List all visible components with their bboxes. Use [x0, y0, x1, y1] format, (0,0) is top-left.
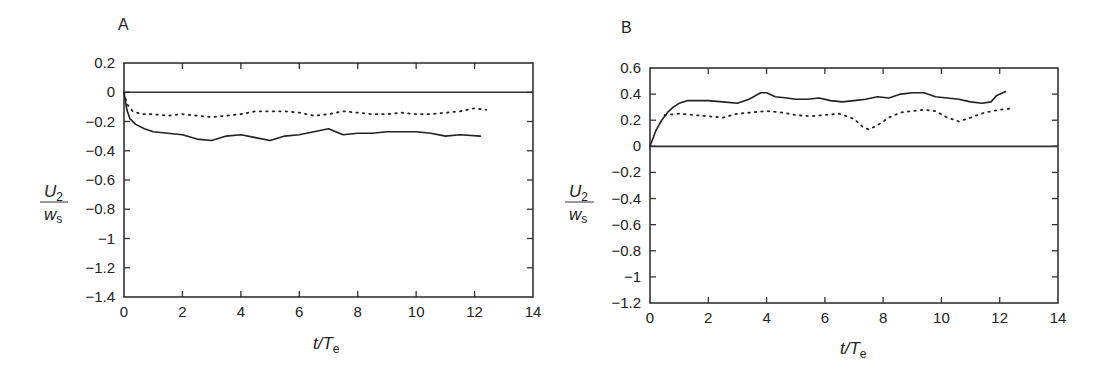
- chart-panel-b: B 024681012140.60.40.20−0.2−0.4−0.6−0.8−…: [565, 19, 1066, 361]
- svg-text:U2: U2: [569, 182, 588, 204]
- x-tick-label: 8: [879, 309, 887, 326]
- chart-panel-a: A 024681012140.20−0.2−0.4−0.6−0.8−1−1.2−…: [40, 16, 541, 356]
- series-solid-line: [124, 92, 480, 140]
- y-tick-label: 0.4: [620, 85, 641, 102]
- panel-label-a: A: [118, 16, 129, 33]
- y-tick-label: 0.2: [620, 111, 641, 128]
- y-tick-label: −1.4: [85, 288, 115, 305]
- y-tick-label: −0.6: [611, 216, 641, 233]
- y-tick-label: −0.8: [611, 242, 641, 259]
- y-tick-label: −0.6: [85, 171, 115, 188]
- plot-frame-b: [650, 68, 1058, 303]
- x-tick-label: 8: [354, 303, 362, 320]
- y-tick-label: −1.2: [85, 259, 115, 276]
- y-tick-label: −0.2: [85, 113, 115, 130]
- x-tick-label: 10: [933, 309, 950, 326]
- y-tick-label: 0.6: [620, 59, 641, 76]
- y-axis-title-b: U2 ws: [565, 182, 594, 226]
- y-tick-label: 0.2: [94, 54, 115, 71]
- x-tick-label: 6: [821, 309, 829, 326]
- x-tick-label: 0: [646, 309, 654, 326]
- svg-text:ws: ws: [569, 205, 587, 226]
- series-dotted-line: [665, 109, 1012, 130]
- y-tick-label: 0: [633, 137, 641, 154]
- panel-label-b: B: [621, 19, 632, 36]
- x-tick-label: 6: [295, 303, 303, 320]
- data-curves-b: [650, 92, 1058, 147]
- y-tick-label: −0.4: [611, 190, 641, 207]
- x-tick-label: 12: [466, 303, 483, 320]
- y-tick-label: −0.8: [85, 200, 115, 217]
- x-tick-label: 0: [120, 303, 128, 320]
- y-tick-label: 0: [107, 83, 115, 100]
- x-axis-title-b: t/Te: [840, 339, 867, 361]
- svg-text:U2: U2: [44, 182, 63, 204]
- x-tick-label: 12: [991, 309, 1008, 326]
- y-tick-label: −1.2: [611, 294, 641, 311]
- y-tick-label: −1: [98, 230, 115, 247]
- series-dotted-line: [124, 92, 486, 117]
- y-axis-title-a: U2 ws: [40, 182, 68, 226]
- svg-text:ws: ws: [44, 205, 62, 226]
- figure: A 024681012140.20−0.2−0.4−0.6−0.8−1−1.2−…: [0, 0, 1103, 366]
- x-tick-label: 14: [1050, 309, 1067, 326]
- plot-frame-a: [124, 63, 533, 297]
- axis-ticks-a: 024681012140.20−0.2−0.4−0.6−0.8−1−1.2−1.…: [85, 54, 541, 320]
- axis-ticks-b: 024681012140.60.40.20−0.2−0.4−0.6−0.8−1−…: [611, 59, 1066, 326]
- x-tick-label: 4: [237, 303, 245, 320]
- x-tick-label: 14: [525, 303, 542, 320]
- data-curves-a: [124, 92, 533, 140]
- x-tick-label: 2: [178, 303, 186, 320]
- y-tick-label: −0.2: [611, 163, 641, 180]
- y-tick-label: −1: [624, 268, 641, 285]
- x-axis-title-a: t/Te: [313, 334, 340, 356]
- x-tick-label: 10: [408, 303, 425, 320]
- y-tick-label: −0.4: [85, 142, 115, 159]
- x-tick-label: 4: [762, 309, 770, 326]
- x-tick-label: 2: [704, 309, 712, 326]
